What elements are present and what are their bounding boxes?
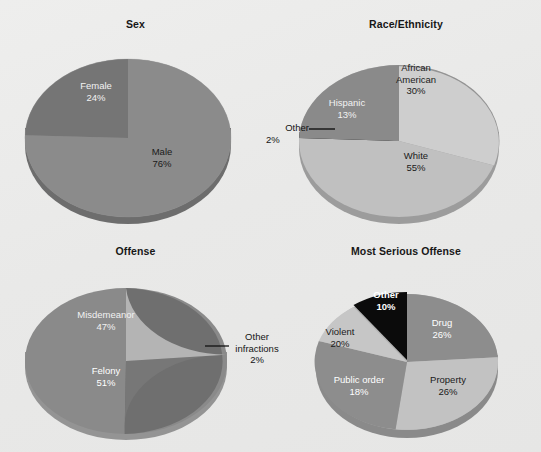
- figure-canvas: Sex Female 24% Male 76%: [0, 0, 541, 452]
- pie-chart-race-ethnicity: Race/Ethnicity African American 3: [271, 18, 541, 228]
- callout-leader-line-other-infractions: [205, 339, 229, 353]
- chart-title-most-serious-offense: Most Serious Offense: [271, 245, 541, 257]
- chart-title-offense: Offense: [0, 245, 271, 257]
- chart-title-race-ethnicity: Race/Ethnicity: [271, 18, 541, 30]
- pie-chart-most-serious-offense: Most Serious Offense Other: [271, 245, 541, 445]
- pie-slice-callout-other: Other 2%: [265, 122, 309, 145]
- pie-chart-offense: Offense Misdemeanor 47% Felony 51%: [0, 245, 271, 445]
- pie-chart-sex: Sex Female 24% Male 76%: [0, 18, 271, 228]
- callout-leader-line-other-race: [309, 122, 335, 138]
- pie-graphic-offense: [22, 267, 234, 447]
- pie-graphic-most-serious-offense: [312, 269, 502, 444]
- pie-graphic-sex: [22, 40, 234, 230]
- chart-title-sex: Sex: [0, 18, 271, 30]
